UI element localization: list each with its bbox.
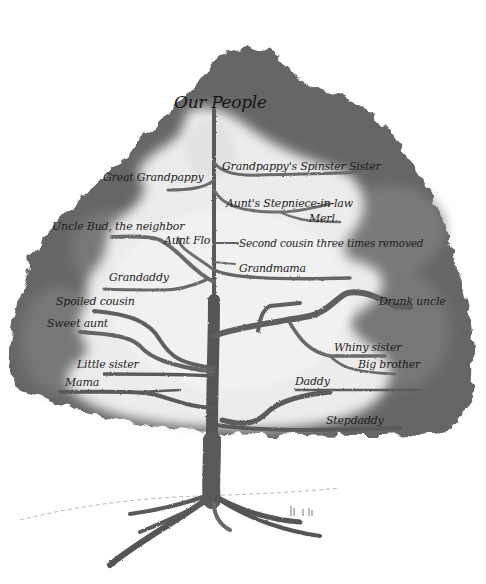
label-great-grandpappy: Great Grandpappy: [103, 172, 203, 183]
label-spoiled-cousin: Spoiled cousin: [56, 296, 135, 307]
label-sweet-aunt: Sweet aunt: [47, 318, 108, 329]
label-uncle-bud-the-neighbor: Uncle Bud, the neighbor: [52, 221, 184, 232]
label-big-brother: Big brother: [358, 359, 420, 370]
label-second-cousin-three-times-removed: Second cousin three times removed: [239, 238, 423, 249]
label-grandaddy: Grandaddy: [109, 272, 169, 283]
label-aunts-stepniece-in-law: Aunt's Stepniece-in-law: [226, 198, 353, 209]
label-stepdaddy: Stepdaddy: [326, 415, 384, 426]
label-daddy: Daddy: [295, 376, 330, 387]
label-drunk-uncle: Drunk uncle: [379, 296, 446, 307]
grass-tufts: [291, 506, 312, 516]
family-tree-illustration: [0, 0, 486, 584]
label-merl: Merl: [309, 213, 335, 224]
label-little-sister: Little sister: [77, 359, 139, 370]
label-mama: Mama: [65, 377, 99, 388]
label-grandmama: Grandmama: [239, 263, 306, 274]
label-whiny-sister: Whiny sister: [334, 342, 401, 353]
label-aunt-flo: Aunt Flo: [164, 235, 210, 246]
label-grandpappys-spinster-sister: Grandpappy's Spinster Sister: [222, 161, 381, 172]
tree-title: Our People: [174, 94, 267, 111]
